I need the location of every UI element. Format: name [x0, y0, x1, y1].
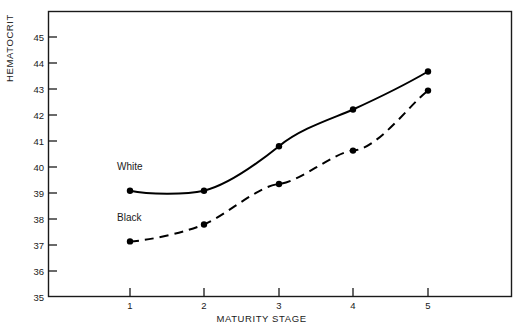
x-axis-title: MATURITY STAGE — [0, 313, 523, 324]
series-black-point-1 — [127, 238, 133, 244]
chart-figure: 45 44 43 42 41 40 — [0, 0, 523, 333]
y-tick-label-41: 41 — [33, 136, 44, 147]
series-black — [127, 87, 431, 244]
series-white-line — [130, 72, 428, 194]
x-tick-label-4: 4 — [350, 300, 355, 311]
x-axis-tick-group: 1 2 3 4 5 — [127, 288, 430, 311]
x-tick-4: 4 — [350, 288, 355, 311]
series-white-point-3 — [276, 143, 282, 149]
y-tick-41: 41 — [33, 136, 57, 147]
hematocrit-by-maturity-stage-line-chart: 45 44 43 42 41 40 — [0, 0, 523, 333]
series-label-black: Black — [117, 212, 142, 223]
series-label-white: White — [117, 161, 143, 172]
series-white-point-5 — [425, 68, 431, 74]
plot-frame-border — [49, 12, 512, 297]
x-tick-label-1: 1 — [127, 300, 132, 311]
y-tick-43: 43 — [33, 84, 57, 95]
y-tick-label-36: 36 — [33, 266, 44, 277]
y-tick-label-39: 39 — [33, 188, 44, 199]
x-tick-label-2: 2 — [201, 300, 206, 311]
y-tick-37: 37 — [33, 240, 57, 251]
y-tick-45: 45 — [33, 32, 57, 43]
y-tick-label-37: 37 — [33, 240, 44, 251]
y-tick-label-35: 35 — [33, 292, 44, 303]
y-tick-label-44: 44 — [33, 58, 44, 69]
series-white-point-1 — [127, 188, 133, 194]
y-tick-label-43: 43 — [33, 84, 44, 95]
y-tick-label-38: 38 — [33, 214, 44, 225]
series-black-line — [130, 91, 428, 242]
y-tick-38: 38 — [33, 214, 57, 225]
y-axis-tick-group: 45 44 43 42 41 40 — [33, 32, 57, 303]
x-tick-1: 1 — [127, 288, 132, 311]
series-white-point-2 — [201, 188, 207, 194]
y-tick-35: 35 — [33, 292, 44, 303]
series-black-point-5 — [425, 87, 431, 93]
y-tick-label-45: 45 — [33, 32, 44, 43]
y-tick-40: 40 — [33, 162, 57, 173]
x-tick-label-5: 5 — [425, 300, 430, 311]
x-tick-5: 5 — [425, 288, 430, 311]
y-tick-label-40: 40 — [33, 162, 44, 173]
y-tick-label-42: 42 — [33, 110, 44, 121]
series-black-point-2 — [201, 221, 207, 227]
series-white-point-4 — [350, 106, 356, 112]
x-tick-2: 2 — [201, 288, 206, 311]
x-tick-label-3: 3 — [276, 300, 281, 311]
x-tick-3: 3 — [276, 288, 281, 311]
y-axis-title: HEMATOCRIT — [4, 0, 15, 108]
y-tick-44: 44 — [33, 58, 57, 69]
series-black-point-4 — [350, 147, 356, 153]
series-black-point-3 — [276, 181, 282, 187]
series-white — [127, 68, 431, 194]
y-tick-39: 39 — [33, 188, 57, 199]
y-tick-36: 36 — [33, 266, 57, 277]
y-tick-42: 42 — [33, 110, 57, 121]
